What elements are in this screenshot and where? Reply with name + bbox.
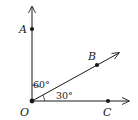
label-c: C	[103, 106, 112, 119]
point-b	[95, 63, 99, 67]
point-a	[30, 27, 34, 31]
angle-diagram: A B C O 60° 30°	[0, 0, 138, 120]
arrowhead-b-icon	[112, 53, 120, 60]
angle-arc-boc	[43, 95, 45, 101]
point-c	[106, 99, 110, 103]
label-a: A	[18, 23, 27, 36]
ray-ob	[32, 53, 119, 101]
point-o	[30, 99, 35, 104]
label-o: O	[20, 106, 29, 119]
angle-label-boc: 30°	[56, 90, 73, 101]
angle-label-aob: 60°	[33, 79, 50, 90]
label-b: B	[87, 50, 96, 63]
